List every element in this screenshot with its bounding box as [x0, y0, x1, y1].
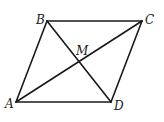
label-D: D: [113, 99, 124, 113]
side-CD: [111, 21, 142, 102]
parallelogram-diagram: A B C D M: [0, 0, 164, 122]
side-AB: [16, 21, 47, 102]
diagram-canvas: A B C D M: [0, 0, 164, 122]
diagonal-BD: [47, 21, 111, 102]
label-A: A: [4, 97, 14, 111]
label-M: M: [75, 44, 89, 58]
label-C: C: [145, 13, 154, 27]
label-B: B: [35, 13, 45, 27]
